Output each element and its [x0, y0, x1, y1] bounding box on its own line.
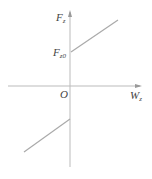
upper-line-segment	[71, 20, 118, 52]
x-axis-label-main: W	[130, 89, 139, 101]
intercept-label-sub: z0	[60, 52, 66, 60]
x-axis-label-sub: z	[139, 95, 142, 103]
y-axis-label: Fz	[56, 12, 65, 25]
x-axis-label: Wz	[130, 90, 142, 103]
x-axis	[8, 84, 142, 88]
y-axis-arrow-icon	[68, 10, 72, 17]
y-axis	[68, 10, 72, 167]
intercept-label-main: F	[53, 46, 60, 58]
x-axis-arrow-icon	[135, 84, 142, 88]
y-axis-label-sub: z	[63, 17, 66, 25]
intercept-label: Fz0	[53, 47, 66, 60]
lower-line-segment	[24, 119, 70, 152]
origin-label: O	[60, 89, 68, 100]
y-axis-label-main: F	[56, 11, 63, 23]
